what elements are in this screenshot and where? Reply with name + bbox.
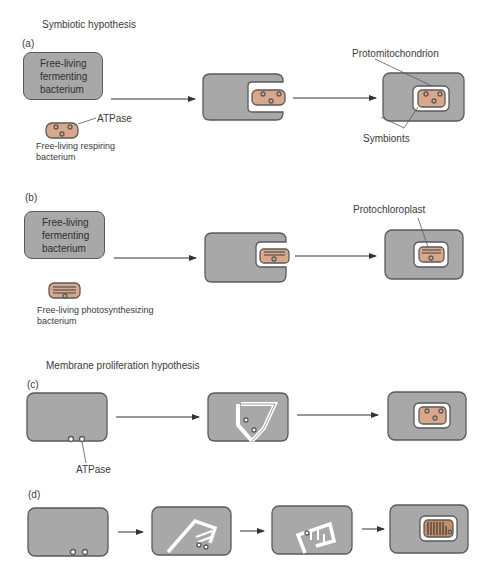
respiring-bacterium — [46, 123, 78, 138]
photosynthesizing-bacterium — [49, 283, 80, 298]
diagram-graphics — [0, 0, 483, 568]
